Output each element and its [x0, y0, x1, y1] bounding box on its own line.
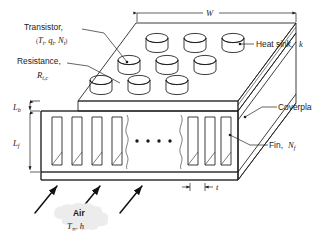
leader-coverplate: [244, 107, 277, 118]
fin-group-right: [188, 117, 231, 165]
fin-cavity: [41, 111, 238, 172]
label-resistance-symbol: Rt,c: [36, 70, 48, 81]
heat-sink-left-wall: [41, 111, 238, 180]
label-heat-sink-k: k: [299, 39, 303, 49]
label-fin: Fin,: [269, 140, 283, 150]
label-transistor-group: Transistor, (Tt, qt, Nt): [24, 22, 67, 46]
dimension-Lb: Lb: [12, 101, 40, 113]
label-heat-sink: Heat sink,: [256, 39, 293, 49]
leader-transistor: [82, 29, 128, 63]
label-coverplate: Coverplate: [278, 102, 312, 112]
label-air: Air: [73, 208, 85, 218]
break-line-left: [126, 115, 128, 169]
transistor-cylinder: [166, 75, 188, 94]
transistor-cylinder: [184, 33, 206, 52]
fin-ellipsis: [135, 139, 171, 142]
transistor-cylinder: [156, 55, 178, 74]
transistor-array: [90, 33, 244, 94]
dimension-t: t: [182, 182, 219, 192]
label-resistance: Resistance,: [17, 56, 61, 66]
heat-sink-right-side-face: [238, 23, 296, 111]
transistor-cylinder: [146, 33, 168, 52]
label-fin-group: Fin, Nf: [269, 140, 297, 151]
dimension-W: W: [137, 6, 296, 22]
heat-sink-front-face: [78, 101, 238, 111]
transistor-cylinder: [118, 55, 140, 74]
figure-svg: W Lb Lf t: [0, 0, 312, 239]
label-Lb: Lb: [12, 102, 21, 113]
dimension-Lf: Lf: [12, 113, 40, 172]
break-line-right: [180, 115, 182, 169]
leader-heat-sink: [239, 43, 254, 46]
label-resistance-group: Resistance, Rt,c: [17, 56, 61, 81]
transistor-cylinder: [128, 75, 150, 94]
label-transistor: Transistor,: [24, 22, 63, 32]
transistor-cylinder: [194, 55, 216, 74]
heat-sink-base-plate: [41, 172, 238, 180]
label-Lf: Lf: [12, 138, 21, 149]
air-callout: Air T∞, h: [54, 203, 108, 232]
label-W: W: [206, 8, 214, 18]
label-transistor-params: (Tt, qt, Nt): [36, 35, 67, 46]
label-t: t: [216, 182, 219, 192]
label-fin-count: Nf: [287, 140, 297, 151]
fin-group-left: [52, 117, 122, 165]
transistor-cylinder: [90, 75, 112, 94]
heat-sink-figure: W Lb Lf t: [0, 0, 312, 239]
